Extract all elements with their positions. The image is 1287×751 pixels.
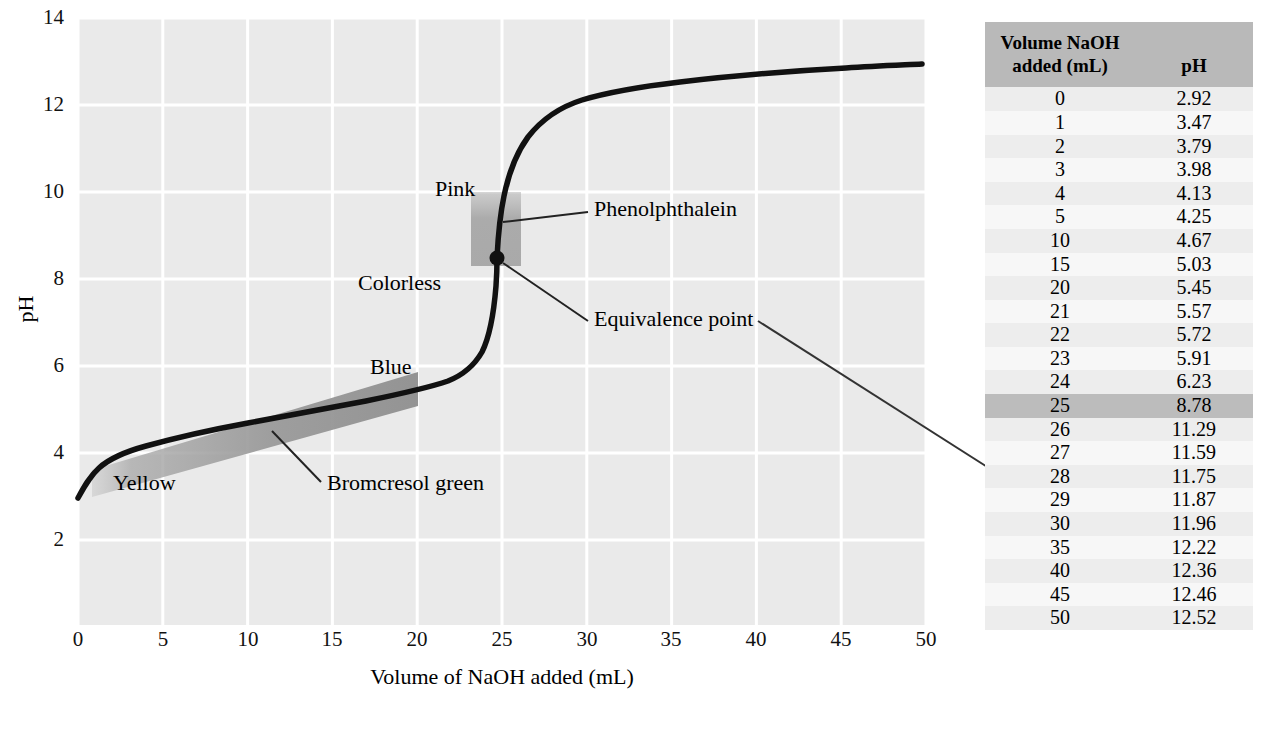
cell-ph: 2.92 — [1135, 87, 1253, 111]
cell-volume: 0 — [985, 87, 1135, 111]
annotation-bromcresol-green: Bromcresol green — [327, 470, 484, 496]
cell-volume: 10 — [985, 229, 1135, 253]
y-tick-8: 8 — [18, 266, 64, 291]
cell-ph: 5.91 — [1135, 347, 1253, 371]
column-header-volume: Volume NaOH added (mL) — [985, 22, 1135, 87]
column-header-volume-line1: Volume NaOH — [985, 31, 1135, 54]
chart: 14 12 10 8 6 4 2 pH 0 5 10 15 20 25 30 3… — [0, 0, 960, 751]
cell-ph: 11.59 — [1135, 441, 1253, 465]
cell-volume: 40 — [985, 559, 1135, 583]
x-tick-25: 25 — [479, 627, 525, 652]
cell-volume: 29 — [985, 488, 1135, 512]
cell-volume: 28 — [985, 465, 1135, 489]
cell-ph: 5.72 — [1135, 323, 1253, 347]
table-row: 54.25 — [985, 205, 1253, 229]
x-tick-20: 20 — [394, 627, 440, 652]
x-tick-45: 45 — [818, 627, 864, 652]
cell-ph: 12.36 — [1135, 559, 1253, 583]
x-tick-15: 15 — [309, 627, 355, 652]
annotation-colorless: Colorless — [358, 270, 441, 296]
cell-volume: 4 — [985, 182, 1135, 206]
cell-ph: 6.23 — [1135, 370, 1253, 394]
cell-ph: 11.75 — [1135, 465, 1253, 489]
cell-volume: 21 — [985, 300, 1135, 324]
table-row: 33.98 — [985, 158, 1253, 182]
cell-volume: 15 — [985, 253, 1135, 277]
cell-volume: 45 — [985, 583, 1135, 607]
cell-ph: 4.25 — [1135, 205, 1253, 229]
cell-ph: 5.03 — [1135, 253, 1253, 277]
x-axis-title: Volume of NaOH added (mL) — [78, 664, 926, 690]
cell-ph: 5.57 — [1135, 300, 1253, 324]
y-axis-title: pH — [13, 289, 39, 329]
table-row: 225.72 — [985, 323, 1253, 347]
x-tick-10: 10 — [225, 627, 271, 652]
table-row: 23.79 — [985, 135, 1253, 159]
table-row: 2911.87 — [985, 488, 1253, 512]
table-row: 155.03 — [985, 253, 1253, 277]
x-tick-40: 40 — [733, 627, 779, 652]
table-row: 3011.96 — [985, 512, 1253, 536]
cell-volume: 20 — [985, 276, 1135, 300]
table-header: Volume NaOH added (mL) pH — [985, 22, 1253, 87]
cell-volume: 30 — [985, 512, 1135, 536]
table-row: 4012.36 — [985, 559, 1253, 583]
cell-volume: 26 — [985, 418, 1135, 442]
table-body: 02.9213.4723.7933.9844.1354.25104.67155.… — [985, 87, 1253, 630]
cell-ph: 11.29 — [1135, 418, 1253, 442]
cell-ph: 12.52 — [1135, 606, 1253, 630]
table-row: 104.67 — [985, 229, 1253, 253]
table-row: 2811.75 — [985, 465, 1253, 489]
column-header-volume-line2: added (mL) — [985, 54, 1135, 77]
x-tick-5: 5 — [140, 627, 186, 652]
y-tick-6: 6 — [18, 353, 64, 378]
table-row: 235.91 — [985, 347, 1253, 371]
cell-ph: 3.47 — [1135, 111, 1253, 135]
x-tick-50: 50 — [903, 627, 949, 652]
equivalence-point-marker — [490, 251, 505, 266]
cell-volume: 24 — [985, 370, 1135, 394]
table-row: 246.23 — [985, 370, 1253, 394]
cell-volume: 35 — [985, 536, 1135, 560]
table-row: 4512.46 — [985, 583, 1253, 607]
ph-data-table: Volume NaOH added (mL) pH 02.9213.4723.7… — [985, 22, 1253, 630]
x-tick-30: 30 — [564, 627, 610, 652]
table-row: 5012.52 — [985, 606, 1253, 630]
table-row: 2611.29 — [985, 418, 1253, 442]
cell-ph: 3.98 — [1135, 158, 1253, 182]
y-tick-14: 14 — [18, 5, 64, 30]
table-row: 44.13 — [985, 182, 1253, 206]
cell-volume: 5 — [985, 205, 1135, 229]
cell-volume: 23 — [985, 347, 1135, 371]
x-tick-0: 0 — [55, 627, 101, 652]
cell-volume: 27 — [985, 441, 1135, 465]
cell-volume: 1 — [985, 111, 1135, 135]
table-row: 02.92 — [985, 87, 1253, 111]
cell-volume: 22 — [985, 323, 1135, 347]
table-row: 13.47 — [985, 111, 1253, 135]
y-tick-2: 2 — [18, 527, 64, 552]
titration-curve-figure: 14 12 10 8 6 4 2 pH 0 5 10 15 20 25 30 3… — [0, 0, 1287, 751]
table-row-highlighted: 258.78 — [985, 394, 1253, 418]
cell-ph: 11.96 — [1135, 512, 1253, 536]
y-tick-12: 12 — [18, 92, 64, 117]
cell-volume: 2 — [985, 135, 1135, 159]
annotation-pink: Pink — [435, 176, 475, 202]
cell-ph: 4.13 — [1135, 182, 1253, 206]
cell-volume: 50 — [985, 606, 1135, 630]
y-tick-4: 4 — [18, 440, 64, 465]
cell-ph: 12.46 — [1135, 583, 1253, 607]
table-row: 215.57 — [985, 300, 1253, 324]
x-tick-35: 35 — [648, 627, 694, 652]
annotation-phenolphthalein: Phenolphthalein — [594, 196, 737, 222]
table-row: 3512.22 — [985, 536, 1253, 560]
cell-volume: 25 — [985, 394, 1135, 418]
cell-volume: 3 — [985, 158, 1135, 182]
table-header-row: Volume NaOH added (mL) pH — [985, 22, 1253, 87]
cell-ph: 8.78 — [1135, 394, 1253, 418]
table-row: 2711.59 — [985, 441, 1253, 465]
cell-ph: 12.22 — [1135, 536, 1253, 560]
cell-ph: 4.67 — [1135, 229, 1253, 253]
y-tick-10: 10 — [18, 179, 64, 204]
annotation-equivalence-point: Equivalence point — [594, 306, 753, 332]
